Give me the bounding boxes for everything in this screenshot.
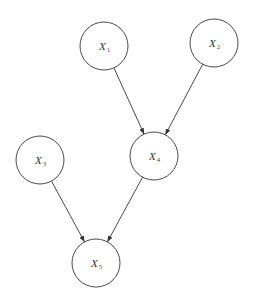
node-subscript: 3 (43, 161, 46, 167)
edge-x2-to-x4 (165, 64, 202, 135)
edge-x1-to-x4 (114, 68, 144, 134)
node-subscript: 2 (217, 44, 220, 50)
node-subscript: 4 (157, 157, 160, 163)
node-label: X (98, 40, 107, 52)
node-x1: X1 (80, 22, 128, 70)
edges (52, 64, 203, 242)
node-subscript: 5 (99, 264, 102, 270)
node-label: X (148, 150, 157, 162)
node-label: X (208, 37, 217, 49)
node-x2: X2 (190, 19, 238, 67)
edge-x3-to-x5 (52, 181, 85, 242)
node-x5: X5 (72, 239, 120, 287)
edge-x4-to-x5 (107, 177, 142, 242)
node-x4: X4 (130, 132, 178, 180)
node-label: X (34, 154, 43, 166)
nodes: X1X2X3X4X5 (16, 19, 238, 287)
node-label: X (90, 257, 99, 269)
dag-diagram: X1X2X3X4X5 (0, 0, 253, 306)
node-x3: X3 (16, 136, 64, 184)
node-subscript: 1 (107, 47, 110, 53)
